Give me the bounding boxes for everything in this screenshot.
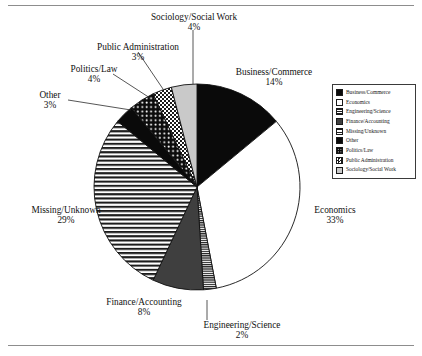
legend-item-other[interactable]: Other [336,136,412,145]
legend-label: Other [346,138,358,143]
callout-pct: 8% [92,307,196,317]
callout-economics: Economics 33% [296,205,374,226]
callout-finance-accounting: Finance/Accounting 8% [92,297,196,318]
callout-label: Missing/Unknown [31,205,100,215]
legend-label: Economics [346,100,370,105]
legend-swatch-politics-law [336,147,343,154]
legend-label: Engineering/Science [346,109,391,114]
legend-swatch-finance-accounting [336,118,343,125]
legend-item-business-commerce[interactable]: Business/Commerce [336,88,412,97]
callout-label: Economics [314,205,355,215]
legend-item-politics-law[interactable]: Politics/Law [336,146,412,155]
callout-pct: 4% [132,22,256,32]
legend-label: Sociology/Social Work [346,167,396,172]
callout-label: Engineering/Science [204,320,281,330]
callout-business-commerce: Business/Commerce 14% [218,67,330,88]
legend-label: Missing/Unknown [346,129,386,134]
callout-pct: 29% [14,215,118,225]
legend-swatch-sociology-social-work [336,167,343,174]
callout-pct: 14% [218,77,330,87]
legend-swatch-missing-unknown [336,128,343,135]
legend-label: Politics/Law [346,148,373,153]
legend-swatch-other [336,137,343,144]
legend-item-sociology-social-work[interactable]: Sociology/Social Work [336,166,412,175]
callout-label: Other [39,90,60,100]
legend-swatch-business-commerce [336,89,343,96]
legend-item-missing-unknown[interactable]: Missing/Unknown [336,127,412,136]
callout-pct: 3% [16,100,84,110]
figure-canvas: Sociology/Social Work 4% Public Administ… [0,0,422,356]
callout-label: Finance/Accounting [106,297,181,307]
legend-swatch-economics [336,99,343,106]
legend-item-economics[interactable]: Economics [336,98,412,107]
callout-other: Other 3% [16,90,84,111]
callout-label: Business/Commerce [236,67,312,77]
callout-public-administration: Public Administration 3% [76,42,200,63]
legend-swatch-engineering-science [336,108,343,115]
legend-item-engineering-science[interactable]: Engineering/Science [336,107,412,116]
legend-item-finance-accounting[interactable]: Finance/Accounting [336,117,412,126]
callout-label: Sociology/Social Work [151,12,237,22]
callout-pct: 3% [76,52,200,62]
callout-pct: 33% [296,215,374,225]
callout-engineering-science: Engineering/Science 2% [190,320,294,341]
callout-sociology-social-work: Sociology/Social Work 4% [132,12,256,33]
callout-politics-law: Politics/Law 4% [48,64,140,85]
callout-missing-unknown: Missing/Unknown 29% [14,205,118,226]
legend-label: Finance/Accounting [346,119,390,124]
legend-label: Public Administration [346,158,393,163]
legend-swatch-public-administration [336,157,343,164]
callout-pct: 2% [190,330,294,340]
chart-legend: Business/CommerceEconomicsEngineering/Sc… [332,84,416,179]
callout-label: Politics/Law [71,64,118,74]
legend-item-public-administration[interactable]: Public Administration [336,156,412,165]
legend-label: Business/Commerce [346,90,390,95]
callout-label: Public Administration [97,42,179,52]
callout-pct: 4% [48,74,140,84]
